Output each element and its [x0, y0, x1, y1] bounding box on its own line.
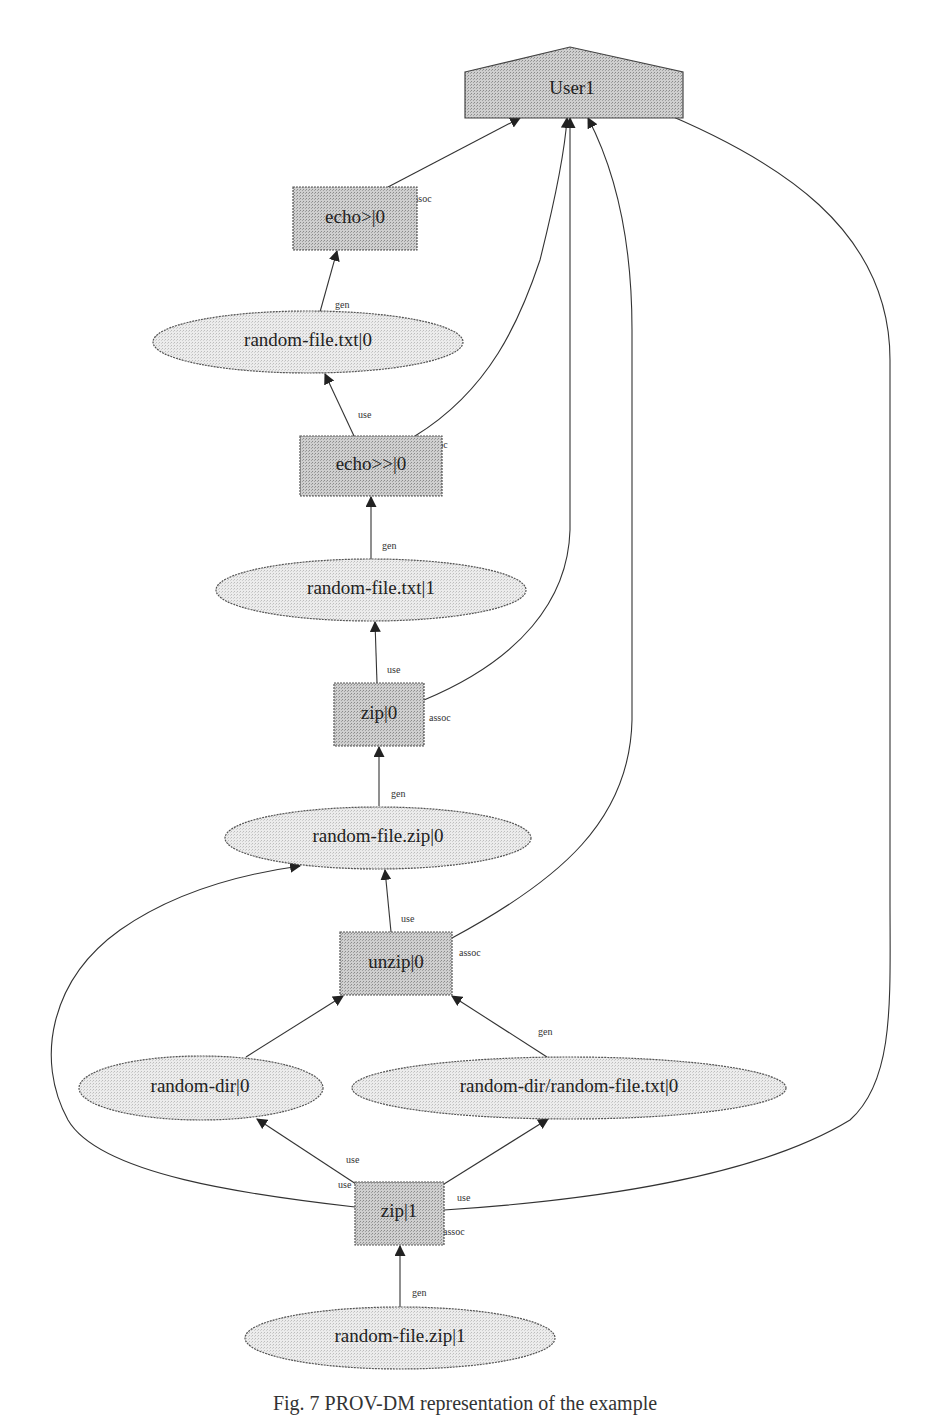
node-label: zip|1	[381, 1200, 418, 1221]
node-label: User1	[549, 77, 594, 98]
node-random-file-zip-0[interactable]: random-file.zip|0	[225, 807, 531, 869]
figure-caption: Fig. 7 PROV-DM representation of the exa…	[0, 1392, 930, 1415]
node-echo-gt-0[interactable]: echo>|0	[293, 187, 417, 250]
edge-label-gen: gen	[412, 1287, 426, 1298]
edge-label-gen: gen	[391, 788, 405, 799]
edge-zip0-rft1	[375, 622, 377, 683]
edge-unzip0-rfz0	[385, 870, 391, 932]
node-label: random-file.zip|1	[335, 1325, 466, 1346]
edge-echogg0-user1	[415, 118, 567, 436]
node-label: random-file.txt|1	[307, 577, 435, 598]
node-unzip-0[interactable]: unzip|0	[340, 932, 452, 995]
node-label: echo>>|0	[336, 453, 407, 474]
node-random-dir-0[interactable]: random-dir|0	[79, 1056, 323, 1120]
edge-label-use: use	[457, 1192, 471, 1203]
node-random-file-zip-1[interactable]: random-file.zip|1	[245, 1307, 555, 1369]
node-label: zip|0	[361, 702, 398, 723]
node-label: random-dir/random-file.txt|0	[460, 1075, 679, 1096]
edge-echogg0-rft0	[325, 374, 354, 436]
edge-label-assoc: assoc	[443, 1226, 465, 1237]
edge-label-use: use	[338, 1179, 352, 1190]
edge-echo0-user1	[388, 118, 520, 187]
node-label: unzip|0	[368, 951, 424, 972]
edge-label-assoc: assoc	[459, 947, 481, 958]
edge-zip1-rdft0	[444, 1119, 548, 1184]
node-label: echo>|0	[325, 206, 385, 227]
node-random-file-txt-0[interactable]: random-file.txt|0	[153, 311, 463, 373]
node-echo-gtgt-0[interactable]: echo>>|0	[300, 436, 442, 496]
edge-zip1-rd0	[257, 1119, 356, 1184]
edge-label-assoc: assoc	[429, 712, 451, 723]
node-label: random-dir|0	[151, 1075, 250, 1096]
edge-label-use: use	[346, 1154, 360, 1165]
node-random-dir-random-file-txt-0[interactable]: random-dir/random-file.txt|0	[352, 1057, 786, 1119]
edge-label-use: use	[358, 409, 372, 420]
node-user1[interactable]: User1	[465, 47, 683, 118]
edge-zip1-user1	[444, 108, 890, 1210]
node-random-file-txt-1[interactable]: random-file.txt|1	[216, 559, 526, 621]
edge-label-gen: gen	[538, 1026, 552, 1037]
edge-rd0-unzip0	[246, 996, 343, 1057]
node-label: random-file.txt|0	[244, 329, 372, 350]
node-zip-0[interactable]: zip|0	[334, 683, 424, 746]
edge-label-use: use	[387, 664, 401, 675]
node-label: random-file.zip|0	[313, 825, 444, 846]
edge-label-gen: gen	[335, 299, 349, 310]
edge-label-use: use	[401, 913, 415, 924]
edge-rdft0-unzip0	[452, 996, 547, 1057]
node-zip-1[interactable]: zip|1	[355, 1182, 444, 1245]
edge-label-gen: gen	[382, 540, 396, 551]
edges	[51, 108, 890, 1307]
edge-zip1-rfz0	[51, 866, 355, 1207]
